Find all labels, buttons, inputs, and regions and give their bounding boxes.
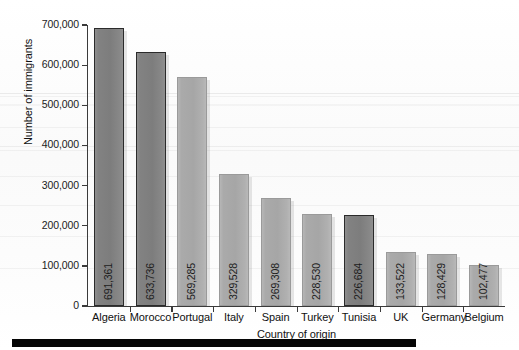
category-label-uk: UK: [380, 311, 422, 323]
bar-portugal[interactable]: 569,285: [177, 77, 207, 306]
bar-shadow: [499, 268, 502, 306]
bar-shadow: [249, 177, 252, 306]
category-label-algeria: Algeria: [88, 311, 130, 323]
plot-area: 691,361633,736569,285329,528269,308228,5…: [88, 25, 505, 306]
bar-value-label: 329,528: [227, 263, 239, 300]
bar-italy[interactable]: 329,528: [219, 174, 249, 306]
bar-shadow: [332, 217, 335, 306]
bar-shadow: [374, 218, 377, 306]
bar-value-label: 569,285: [185, 263, 197, 300]
category-label-belgium: Belgium: [463, 311, 505, 323]
y-tick-mark: [82, 65, 87, 66]
category-label-portugal: Portugal: [171, 311, 213, 323]
y-tick-label: 100,000: [0, 259, 79, 271]
category-label-italy: Italy: [213, 311, 255, 323]
bar-shadow: [457, 257, 460, 306]
y-tick-mark: [82, 145, 87, 146]
y-tick-mark: [82, 185, 87, 186]
bar-shadow: [291, 201, 294, 306]
y-tick-label: 600,000: [0, 58, 79, 70]
bar-value-label: 691,361: [102, 263, 114, 300]
bar-value-label: 226,684: [352, 263, 364, 300]
category-label-tunisia: Tunisia: [338, 311, 380, 323]
bar-germany[interactable]: 128,429: [427, 254, 457, 306]
y-tick-mark: [82, 105, 87, 106]
category-label-turkey: Turkey: [297, 311, 339, 323]
y-tick-mark: [82, 265, 87, 266]
bar-value-label: 133,522: [394, 263, 406, 300]
bar-belgium[interactable]: 102,477: [469, 265, 499, 306]
y-tick-mark: [82, 24, 87, 25]
y-tick-label: 700,000: [0, 18, 79, 30]
bar-uk[interactable]: 133,522: [386, 252, 416, 306]
category-label-germany: Germany: [422, 311, 464, 323]
bar-shadow: [416, 255, 419, 306]
y-tick-label: 400,000: [0, 138, 79, 150]
y-tick-label: 300,000: [0, 179, 79, 191]
bar-shadow: [166, 55, 169, 306]
bar-spain[interactable]: 269,308: [261, 198, 291, 306]
category-label-morocco: Morocco: [130, 311, 172, 323]
bar-value-label: 633,736: [144, 263, 156, 300]
y-tick-label: 0: [0, 299, 79, 311]
bar-shadow: [124, 31, 127, 306]
immigrants-by-country-bar-chart: Number of immigrants 0100,000200,000300,…: [0, 0, 519, 350]
bar-value-label: 228,530: [310, 263, 322, 300]
y-tick-label: 200,000: [0, 219, 79, 231]
bar-morocco[interactable]: 633,736: [136, 52, 166, 306]
y-tick-mark: [82, 305, 87, 306]
bar-tunisia[interactable]: 226,684: [344, 215, 374, 306]
bar-shadow: [207, 80, 210, 306]
bar-turkey[interactable]: 228,530: [302, 214, 332, 306]
bar-value-label: 269,308: [269, 263, 281, 300]
y-tick-mark: [82, 225, 87, 226]
footer-rule: [12, 339, 416, 347]
bar-algeria[interactable]: 691,361: [94, 28, 124, 306]
bar-value-label: 102,477: [477, 263, 489, 300]
y-tick-label: 500,000: [0, 98, 79, 110]
category-label-spain: Spain: [255, 311, 297, 323]
bar-value-label: 128,429: [435, 263, 447, 300]
